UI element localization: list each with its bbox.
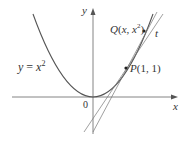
origin-label: 0	[83, 100, 88, 110]
x-axis-arrow-icon	[171, 95, 178, 100]
curve-equation-label: y = x2	[18, 60, 45, 73]
y-axis-arrow-icon	[91, 8, 96, 15]
curve-label-eq: =	[23, 60, 36, 74]
y-axis-label: y	[82, 5, 87, 16]
curve-label-exp: 2	[41, 59, 45, 68]
point-q-name: Q	[110, 23, 118, 35]
x-axis-label: x	[173, 101, 178, 112]
point-p-dot	[124, 66, 127, 69]
y-axis-label-text: y	[82, 4, 87, 16]
point-p-label: P(1, 1)	[130, 63, 161, 74]
x-axis-label-text: x	[173, 100, 178, 112]
point-p-coords: (1, 1)	[137, 62, 161, 74]
point-p-name: P	[130, 62, 137, 74]
point-q-close: )	[140, 23, 144, 35]
point-q-label: Q(x, x2)	[110, 23, 144, 35]
tangent-label: t	[155, 28, 158, 39]
